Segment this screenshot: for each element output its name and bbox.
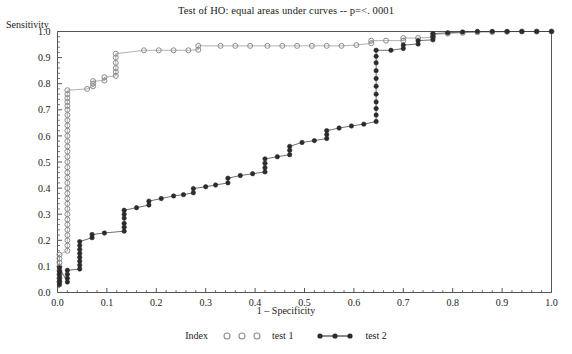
data-point (204, 185, 208, 189)
data-point (389, 48, 393, 52)
data-point (520, 29, 524, 33)
data-point (287, 152, 291, 156)
series-line (59, 32, 551, 285)
data-point (374, 61, 378, 65)
x-axis-label: 1 – Specificity (0, 305, 572, 316)
y-tick-label: 0.4 (38, 183, 51, 194)
y-tick-label: 1.0 (38, 26, 51, 37)
legend-label-test-1: test 1 (272, 330, 293, 341)
series-line (59, 32, 551, 283)
data-point (374, 76, 378, 80)
data-point (159, 196, 163, 200)
data-point (65, 268, 69, 272)
data-point (374, 54, 378, 58)
data-point (374, 48, 378, 52)
data-point (78, 239, 82, 243)
data-point (213, 183, 217, 187)
data-point (90, 232, 94, 236)
chart-legend: Index test 1 test 2 (0, 330, 572, 341)
data-point (446, 31, 450, 35)
data-point (263, 170, 267, 174)
data-point (490, 29, 494, 33)
y-tick-label: 0.1 (38, 261, 51, 272)
y-tick-label: 0.9 (38, 52, 51, 63)
y-tick-label: 0.6 (38, 131, 51, 142)
data-point (431, 31, 435, 35)
data-point (349, 124, 353, 128)
data-point (312, 138, 316, 142)
plot-area: 0.00.10.20.30.40.50.60.70.80.91.00.00.10… (0, 0, 572, 354)
data-point (263, 161, 267, 165)
plot-frame (58, 32, 552, 293)
data-point (505, 29, 509, 33)
data-point (191, 191, 195, 195)
open-circle-marker-icon (222, 331, 264, 341)
data-point (374, 84, 378, 88)
data-point (226, 181, 230, 185)
data-point (134, 205, 138, 209)
data-point (171, 194, 175, 198)
series-test-2 (57, 29, 553, 287)
y-tick-label: 0.0 (38, 287, 51, 298)
data-point (475, 29, 479, 33)
y-tick-label: 0.8 (38, 78, 51, 89)
data-point (374, 106, 378, 110)
data-point (374, 100, 378, 104)
data-point (549, 29, 553, 33)
legend-entry-test-2[interactable]: test 2 (315, 330, 386, 341)
data-point (263, 166, 267, 170)
data-point (122, 221, 126, 225)
legend-entry-test-1[interactable]: test 1 (222, 330, 293, 341)
data-point (374, 113, 378, 117)
roc-chart-figure: Test of HO: equal areas under curves -- … (0, 0, 572, 354)
data-point (374, 119, 378, 123)
y-tick-label: 0.2 (38, 235, 51, 246)
data-point (275, 155, 279, 159)
legend-title: Index (185, 330, 208, 341)
data-point (401, 43, 405, 47)
series-test-1 (57, 29, 554, 285)
data-point (181, 192, 185, 196)
data-point (191, 186, 195, 190)
data-point (226, 176, 230, 180)
y-tick-label: 0.5 (38, 157, 51, 168)
legend-label-test-2: test 2 (365, 330, 386, 341)
data-point (325, 128, 329, 132)
data-point (122, 208, 126, 212)
data-point (460, 30, 464, 34)
data-point (147, 199, 151, 203)
data-point (374, 68, 378, 72)
data-point (250, 172, 254, 176)
data-point (534, 29, 538, 33)
data-point (300, 140, 304, 144)
data-point (416, 38, 420, 42)
data-point (287, 144, 291, 148)
data-point (263, 157, 267, 161)
y-tick-label: 0.3 (38, 209, 51, 220)
data-point (362, 122, 366, 126)
data-point (57, 266, 61, 270)
data-point (238, 173, 242, 177)
data-point (337, 126, 341, 130)
y-tick-label: 0.7 (38, 104, 51, 115)
filled-circle-marker-icon (315, 331, 357, 341)
data-point (374, 92, 378, 96)
data-point (102, 231, 106, 235)
